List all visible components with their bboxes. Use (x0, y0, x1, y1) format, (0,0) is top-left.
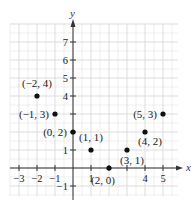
y-axis-label: y (69, 7, 75, 19)
x-tick-label: −2 (31, 173, 42, 184)
y-axis-arrow-icon (71, 19, 76, 27)
point-marker (160, 111, 165, 116)
x-axis-arrow-icon (176, 166, 183, 171)
point-label: (−1, 3) (19, 108, 49, 121)
point-label: (5, 3) (133, 108, 157, 121)
point-marker (124, 147, 129, 152)
point-label: (0, 2) (43, 126, 67, 139)
point-label: (2, 0) (91, 174, 115, 187)
data-point: (−1, 3) (19, 108, 58, 121)
data-point: (5, 3) (133, 108, 165, 121)
y-tick-label: 6 (63, 55, 68, 66)
data-point: (−2, 4) (22, 77, 52, 99)
point-marker (106, 165, 111, 170)
y-tick-label: 1 (63, 145, 68, 156)
y-tick-label: 5 (63, 73, 68, 84)
data-point: (1, 1) (79, 131, 103, 153)
point-label: (−2, 4) (22, 77, 52, 90)
point-label: (1, 1) (79, 131, 103, 144)
x-tick-label: 5 (160, 173, 165, 184)
point-marker (52, 111, 57, 116)
data-point: (2, 0) (91, 165, 115, 187)
point-marker (34, 93, 39, 98)
point-label: (3, 1) (120, 154, 144, 167)
point-marker (142, 129, 147, 134)
point-marker (70, 129, 75, 134)
coordinate-plane: xy−3−2−1145−114567(−2, 4)(−1, 3)(0, 2)(1… (0, 0, 196, 205)
x-tick-label: 4 (142, 173, 148, 184)
data-point: (0, 2) (43, 126, 75, 139)
y-tick-label: 7 (63, 37, 68, 48)
y-tick-label: −1 (57, 181, 68, 192)
y-tick-label: 4 (63, 91, 69, 102)
point-marker (88, 147, 93, 152)
point-label: (4, 2) (138, 135, 162, 148)
x-axis-label: x (185, 161, 191, 173)
x-tick-label: −3 (13, 173, 24, 184)
